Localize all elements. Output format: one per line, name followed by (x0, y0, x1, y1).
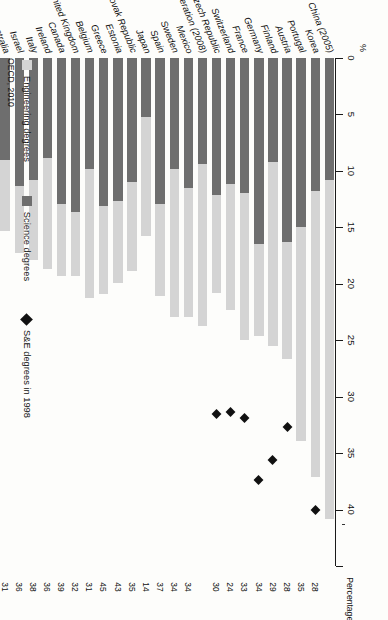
chart-row: Mexico34 (181, 58, 195, 566)
stacked-bar (198, 58, 207, 326)
bar-segment-engineering (141, 117, 150, 237)
stacked-bar (240, 58, 249, 340)
bar-segment-engineering (325, 180, 334, 519)
science-swatch-icon (22, 196, 32, 206)
chart-row: Japan14 (139, 58, 153, 566)
chart-row: Estonia43 (111, 58, 125, 566)
chart-row: Ireland36 (40, 58, 54, 566)
engineering-swatch-icon (22, 60, 32, 70)
x-axis-tick (336, 510, 343, 511)
chart-row: China (2005) (322, 58, 336, 566)
stacked-bar (268, 58, 277, 346)
bar-segment-engineering (226, 184, 235, 309)
stacked-bar (212, 58, 221, 293)
row-value-label: 30 (211, 578, 221, 596)
marker-1998 (226, 408, 236, 418)
bar-segment-engineering (198, 164, 207, 325)
chart-row: Spain37 (153, 58, 167, 566)
chart-row: Australia31 (0, 58, 12, 566)
chart-row: United Kingdom32 (68, 58, 82, 566)
bar-segment-engineering (43, 158, 52, 269)
x-axis-tick (336, 566, 343, 567)
row-value-label: 31 (0, 578, 10, 596)
stacked-bar (311, 58, 320, 477)
x-axis: % 051015202530354045 (335, 58, 354, 566)
marker-1998 (282, 422, 292, 432)
bar-segment-engineering (155, 204, 164, 297)
chart-row: Sweden34 (167, 58, 181, 566)
bar-segment-science (71, 58, 80, 212)
bar-segment-science (113, 58, 122, 201)
bar-segment-engineering (268, 162, 277, 346)
x-axis-tick (336, 453, 343, 454)
row-value-label: 32 (70, 578, 80, 596)
stacked-bar (71, 58, 80, 276)
bar-segment-science (282, 58, 291, 242)
diamond-marker-icon (21, 313, 34, 326)
x-axis-tick-label: 20 (346, 278, 357, 289)
stacked-bar (85, 58, 94, 298)
bar-segment-engineering (57, 204, 66, 276)
chart-row: Belgium31 (82, 58, 96, 566)
row-value-label: 34 (183, 578, 193, 596)
source-note: OECD, 2010 (6, 58, 16, 107)
chart-plot-area: % 051015202530354045 China (2005)Korea28… (54, 58, 354, 566)
bar-segment-science (325, 58, 334, 180)
x-axis-tick (336, 114, 343, 115)
bar-segment-engineering (296, 227, 305, 440)
x-axis-tick-label: 30 (346, 391, 357, 402)
bar-segment-science (311, 58, 320, 191)
chart-row: Greece45 (96, 58, 110, 566)
row-value-label: 43 (113, 578, 123, 596)
legend-item-engineering: Engineering degrees (22, 60, 32, 162)
x-axis-tick-label: 10 (346, 165, 357, 176)
chart-row: Korea28 (308, 58, 322, 566)
row-value-label: 45 (99, 578, 109, 596)
bar-segment-science (240, 58, 249, 193)
row-value-label: 29 (268, 578, 278, 596)
row-value-label: 37 (155, 578, 165, 596)
chart-legend: Engineering degrees Science degrees S&E … (22, 60, 32, 418)
row-value-label: 34 (254, 578, 264, 596)
x-axis-tick-label: 25 (346, 335, 357, 346)
stacked-bar (170, 58, 179, 317)
bar-rows: China (2005)Korea28Portugal35Austria28Fi… (54, 58, 336, 566)
percent-unit-label: % (358, 44, 368, 52)
x-axis-tick (336, 340, 343, 341)
stacked-bar (141, 58, 150, 236)
row-value-label: 28 (310, 578, 320, 596)
chart-row: Austria28 (280, 58, 294, 566)
bar-segment-engineering (170, 169, 179, 317)
x-axis-tick-label: 35 (346, 448, 357, 459)
bar-segment-science (212, 58, 221, 195)
chart-row: France33 (237, 58, 251, 566)
bar-segment-science (198, 58, 207, 164)
stacked-bar (127, 58, 136, 271)
stacked-bar (226, 58, 235, 310)
row-value-label: 24 (225, 578, 235, 596)
marker-1998 (240, 413, 250, 423)
chart-row: Canada39 (54, 58, 68, 566)
x-axis-tick-label: 0 (346, 55, 357, 60)
x-axis-tick-label: 40 (346, 504, 357, 515)
bar-segment-science (170, 58, 179, 169)
legend-item-science: Science degrees (22, 196, 32, 281)
x-axis-tick (336, 227, 343, 228)
axis-title: Percentage of S&E degrees awarded to wom… (345, 524, 355, 620)
bar-segment-science (85, 58, 94, 169)
row-value-label: 35 (296, 578, 306, 596)
bar-segment-science (99, 58, 108, 206)
bar-segment-science (268, 58, 277, 162)
legend-label-engineering: Engineering degrees (22, 76, 32, 162)
bar-segment-engineering (254, 244, 263, 335)
stacked-bar (43, 58, 52, 269)
bar-segment-science (155, 58, 164, 204)
row-value-label: 36 (14, 578, 24, 596)
row-value-label: 14 (141, 578, 151, 596)
stacked-bar (184, 58, 193, 317)
bar-segment-engineering (113, 201, 122, 282)
marker-1998 (310, 505, 320, 515)
row-value-label: 34 (169, 578, 179, 596)
bar-segment-engineering (85, 169, 94, 299)
bar-segment-science (296, 58, 305, 227)
